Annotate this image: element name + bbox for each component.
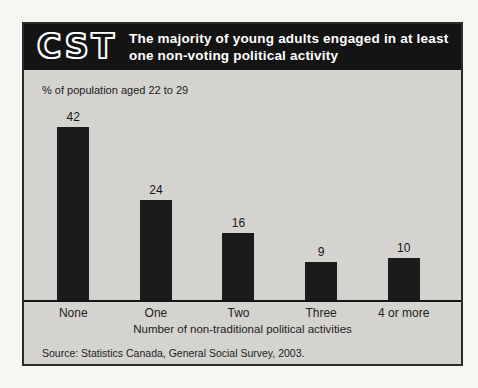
x-axis-title: Number of non-traditional political acti… <box>24 323 461 335</box>
bar-column-one: 24 <box>115 110 198 300</box>
y-axis-unit-label: % of population aged 22 to 29 <box>42 84 188 96</box>
plot-area: 422416910 <box>24 110 461 302</box>
bar <box>140 200 172 300</box>
bar <box>57 127 89 300</box>
bar-chart: % of population aged 22 to 29 422416910 … <box>24 70 461 364</box>
chart-figure: CST The majority of young adults engaged… <box>22 22 463 366</box>
figure-header: CST The majority of young adults engaged… <box>24 24 461 70</box>
bar-value-label: 16 <box>232 216 245 230</box>
x-axis-category-row: NoneOneTwoThree4 or more <box>24 306 461 320</box>
bar <box>388 258 420 300</box>
bar <box>222 233 254 300</box>
bar-value-label: 42 <box>67 110 80 124</box>
bar-column-4-or-more: 10 <box>362 110 445 300</box>
x-category-label: Three <box>280 306 363 320</box>
x-category-label: Two <box>197 306 280 320</box>
figure-title-line1: The majority of young adults engaged in … <box>129 30 448 47</box>
bar-column-none: 42 <box>32 110 115 300</box>
bar-value-label: 10 <box>397 241 410 255</box>
x-category-label: 4 or more <box>362 306 445 320</box>
x-category-label: None <box>32 306 115 320</box>
bar <box>305 262 337 300</box>
cst-logo: CST <box>37 30 129 63</box>
source-note: Source: Statistics Canada, General Socia… <box>42 347 304 359</box>
x-category-label: One <box>115 306 198 320</box>
figure-title: The majority of young adults engaged in … <box>129 30 448 64</box>
bar-column-two: 16 <box>197 110 280 300</box>
bar-value-label: 9 <box>318 245 325 259</box>
figure-title-line2: one non-voting political activity <box>129 47 448 64</box>
bar-column-three: 9 <box>280 110 363 300</box>
bar-value-label: 24 <box>149 183 162 197</box>
